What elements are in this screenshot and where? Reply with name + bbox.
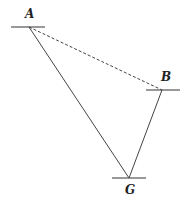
edge-a-b-dashed xyxy=(29,27,162,90)
diagram-canvas: A B G xyxy=(0,0,189,203)
edge-b-g xyxy=(129,90,162,178)
label-b: B xyxy=(160,70,171,84)
edge-a-g xyxy=(29,27,129,178)
label-g: G xyxy=(125,183,135,197)
label-a: A xyxy=(24,7,34,21)
